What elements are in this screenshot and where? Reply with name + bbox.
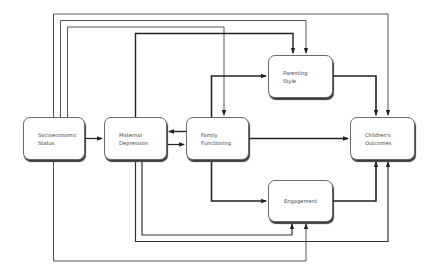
node-label-line-2: Depression [105, 139, 166, 147]
node-label-line-1: Children's [351, 131, 414, 139]
node-label-line-2: Functioning [187, 139, 248, 147]
node-socioeconomic-status: Socioeconomic Status [23, 117, 85, 160]
edge-parenting-to-outcomes [333, 76, 376, 115]
node-maternal-depression: Maternal Depression [104, 117, 167, 160]
node-label-line-1: Family [187, 131, 248, 139]
node-engagement: Engagement [268, 180, 333, 222]
edge-family-to-parenting [212, 76, 267, 117]
node-childrens-outcomes: Children's Outcomes [350, 117, 415, 160]
edge-ses-to-family [68, 27, 225, 117]
edge-family-to-engagement [212, 160, 267, 201]
edge-engagement-to-outcomes [333, 162, 376, 201]
edge-ses-to-outcomes-top [54, 14, 389, 117]
node-label-line-2: Style [269, 77, 332, 85]
node-label-line-1: Socioeconomic [24, 131, 84, 139]
node-family-functioning: Family Functioning [186, 117, 249, 160]
node-label-line-2: Status [24, 139, 84, 147]
node-label-line-2: Outcomes [351, 139, 414, 147]
node-label-line-1: Parenting [269, 69, 332, 77]
node-label-line-1: Engagement [269, 197, 332, 205]
node-label-line-1: Maternal [105, 131, 166, 139]
node-parenting-style: Parenting Style [268, 55, 333, 98]
